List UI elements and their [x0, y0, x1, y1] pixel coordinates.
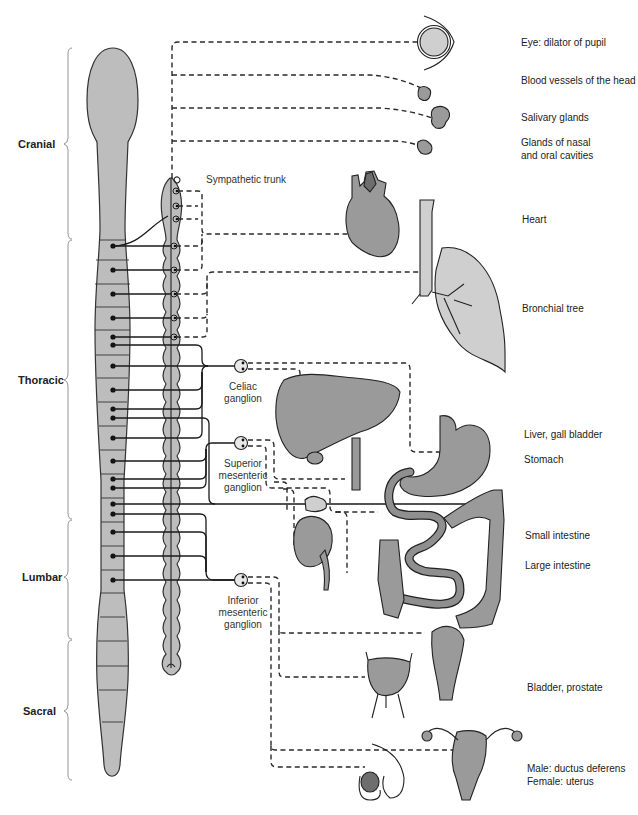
sympathetic-trunk [161, 178, 181, 675]
organ-label-head-vessels: Blood vessels of the head [521, 74, 636, 87]
heart-illustration [346, 171, 399, 257]
kidney-illustration [294, 496, 333, 590]
organ-label-reproductive: Male: ductus deferens Female: uterus [527, 762, 625, 788]
stomach-illustration [400, 416, 490, 497]
region-label-lumbar: Lumbar [22, 571, 62, 583]
celiac-ganglion-node [235, 360, 248, 373]
superior-mesenteric-ganglion-node [235, 437, 248, 450]
sympathetic-trunk-label: Sympathetic trunk [206, 174, 286, 185]
organ-label-bronchial: Bronchial tree [522, 302, 584, 315]
organ-label-nasal-oral: Glands of nasal and oral cavities [521, 136, 593, 162]
organ-label-large-intestine: Large intestine [525, 559, 591, 572]
testis-illustration [359, 744, 404, 800]
spinal-cord [87, 48, 138, 776]
celiac-ganglion-label: Celiac ganglion [208, 381, 278, 405]
superior-mesenteric-ganglion-label: Superior mesenteric ganglion [208, 458, 278, 494]
uterus-illustration [422, 728, 522, 800]
organ-label-eye: Eye: dilator of pupil [521, 36, 606, 49]
inferior-mesenteric-ganglion-label: Inferior mesenteric ganglion [208, 595, 278, 631]
organ-label-stomach: Stomach [524, 453, 563, 466]
head-vessels-illustration [418, 87, 431, 101]
bladder-illustration [366, 652, 412, 718]
organ-label-salivary: Salivary glands [521, 111, 589, 124]
organ-label-small-intestine: Small intestine [525, 529, 590, 542]
region-label-thoracic: Thoracic [18, 374, 64, 386]
eye-illustration [418, 16, 455, 70]
liver-illustration [276, 374, 400, 490]
organ-label-liver: Liver, gall bladder [524, 428, 602, 441]
nasal-oral-glands-illustration [417, 140, 432, 154]
organ-label-bladder: Bladder, prostate [527, 681, 603, 694]
salivary-glands-illustration [431, 106, 449, 128]
bronchial-tree-illustration [412, 200, 505, 372]
organ-label-heart: Heart [522, 213, 546, 226]
region-label-cranial: Cranial [18, 138, 55, 150]
region-braces [64, 48, 72, 780]
region-label-sacral: Sacral [23, 705, 56, 717]
inferior-mesenteric-ganglion-node [235, 574, 248, 587]
